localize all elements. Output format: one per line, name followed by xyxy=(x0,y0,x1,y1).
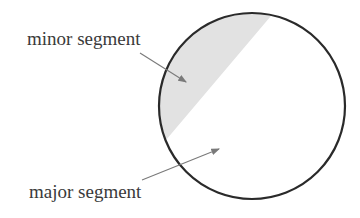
minor-segment-label: minor segment xyxy=(27,28,141,49)
circle-segment-diagram: minor segment major segment xyxy=(0,0,360,218)
minor-segment-region xyxy=(100,0,300,140)
major-segment-label: major segment xyxy=(29,181,142,202)
major-segment-arrow xyxy=(142,149,219,180)
